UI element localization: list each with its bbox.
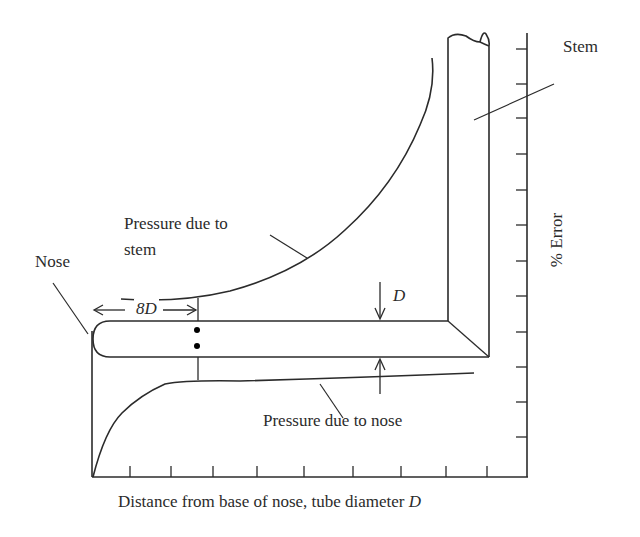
- nose-leader: [53, 283, 88, 334]
- stem-pressure-leader: [270, 235, 307, 258]
- label-pressure-stem-2: stem: [124, 240, 156, 260]
- label-pressure-stem-1: Pressure due to: [124, 214, 228, 234]
- y-ticks: [516, 49, 527, 437]
- x-ticks: [130, 466, 487, 477]
- label-pressure-nose: Pressure due to nose: [263, 411, 402, 431]
- label-stem: Stem: [563, 37, 598, 57]
- pressure-hole-upper: [194, 327, 200, 333]
- label-nose: Nose: [35, 252, 70, 272]
- stem-pressure-curve: [121, 58, 433, 300]
- x-axis-label-text: Distance from base of nose, tube diamete…: [118, 492, 409, 511]
- stem-leader: [474, 84, 554, 120]
- stem-tube: [448, 33, 489, 357]
- x-axis-label-var: D: [409, 492, 421, 511]
- label-d: D: [393, 286, 405, 306]
- x-axis-label: Distance from base of nose, tube diamete…: [118, 492, 421, 512]
- pitot-tube-error-diagram: Stem Nose Pressure due to stem Pressure …: [0, 0, 640, 537]
- diagram-canvas: [0, 0, 640, 537]
- y-axis-label: % Error: [547, 200, 567, 280]
- probe-tube: [93, 321, 489, 357]
- label-8d: 8D: [134, 299, 159, 319]
- pressure-hole-lower: [194, 343, 200, 349]
